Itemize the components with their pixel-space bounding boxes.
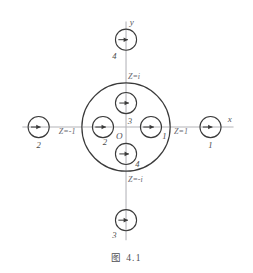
- node-outer-left-label: 2: [37, 140, 42, 150]
- node-inner-left: 2: [92, 116, 113, 147]
- node-outer-right: 1: [200, 116, 221, 150]
- node-outer-right-arrow-head: [208, 125, 212, 130]
- node-outer-right-label: 1: [208, 140, 212, 150]
- node-inner-right-label: 1: [162, 131, 166, 141]
- node-inner-top-arrow-head: [125, 101, 129, 106]
- marker-z-eq-minus-i: Z=-i: [128, 175, 143, 184]
- x-axis-label: x: [227, 114, 232, 124]
- node-outer-left: 2: [28, 116, 49, 150]
- figure-caption: 图 4.1: [0, 250, 253, 264]
- marker-z-eq-i: Z=i: [128, 72, 140, 81]
- marker-z-eq-1: Z=1: [174, 127, 188, 136]
- node-inner-bottom-arrow-head: [125, 152, 129, 157]
- node-outer-left-arrow-head: [36, 125, 40, 130]
- origin-label: O: [116, 131, 123, 141]
- node-outer-bottom-label: 3: [111, 230, 117, 240]
- node-outer-top-label: 4: [112, 51, 117, 61]
- marker-z-eq-minus-1: Z=-1: [59, 127, 76, 136]
- node-inner-right: 1: [140, 116, 166, 140]
- node-inner-left-label: 2: [103, 137, 108, 147]
- node-inner-right-arrow-head: [150, 125, 154, 130]
- node-inner-top-label: 3: [127, 116, 133, 126]
- node-outer-top: 4: [112, 29, 136, 61]
- node-inner-bottom: 4: [115, 143, 140, 169]
- node-inner-left-arrow-head: [102, 125, 106, 130]
- node-outer-bottom: 3: [111, 210, 136, 241]
- figure-container: x y O Z=i Z=-i Z=-1 Z=1 1 2 3: [0, 0, 253, 273]
- y-axis-label: y: [129, 17, 135, 27]
- node-inner-bottom-label: 4: [135, 159, 140, 169]
- complex-plane-diagram: x y O Z=i Z=-i Z=-1 Z=1 1 2 3: [0, 8, 253, 248]
